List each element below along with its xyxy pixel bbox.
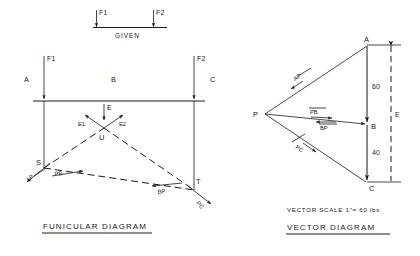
vector-ray-ap-label: AP	[292, 72, 302, 81]
given-force-left-label: F1	[99, 9, 108, 16]
funicular-ray-bp-label: BP	[157, 188, 166, 195]
vector-caption: VECTOR DIAGRAM	[287, 223, 375, 232]
funicular-resultant-label: E	[107, 104, 112, 111]
funicular-point-u-label: U	[99, 133, 104, 142]
funicular-ray-pc-label: PC	[195, 200, 205, 210]
given-diagram: F1 F2 GIVEN	[93, 9, 167, 39]
funicular-caption: FUNICULAR DIAGRAM	[43, 222, 147, 231]
vector-point-c-label: C	[369, 184, 375, 193]
given-force-right-label: F2	[156, 9, 165, 16]
funicular-string-ut	[104, 128, 194, 190]
funicular-component-e2-label: E2	[119, 121, 126, 127]
vector-scale-note: VECTOR SCALE 1"= 60 lbs	[287, 206, 380, 213]
vector-dimension-bc: 40	[372, 149, 380, 156]
funicular-diagram: F1 F2 A B C E E1 E2 U S AP PB BP	[24, 55, 216, 233]
vector-ray-pb	[265, 114, 365, 124]
funicular-region-b-label: B	[111, 75, 116, 84]
vector-ray-pb-label: PB	[310, 109, 318, 115]
engineering-figure: F1 F2 GIVEN F1 F2 A B C E E1 E2 U	[0, 0, 420, 256]
vector-ray-bp-label: BP	[320, 125, 328, 131]
funicular-point-s-label: S	[36, 158, 41, 167]
vector-point-p-label: P	[253, 110, 258, 119]
funicular-component-e1-label: E1	[78, 121, 85, 127]
funicular-region-c-label: C	[210, 75, 216, 84]
vector-ray-pc-label: PC	[294, 144, 304, 154]
vector-ray-pc-overbar	[292, 134, 305, 142]
vector-point-a-label: A	[364, 35, 369, 44]
given-caption: GIVEN	[115, 32, 140, 39]
vector-ray-pa	[265, 46, 367, 114]
vector-ray-ap-overbar	[298, 68, 311, 76]
vector-ray-ap-arrow	[291, 81, 303, 89]
vector-ray-pc	[265, 114, 366, 182]
funicular-component-e1-arrow	[85, 115, 104, 128]
vector-point-b-label: B	[371, 122, 376, 131]
funicular-force-right-label: F2	[197, 55, 206, 62]
funicular-ray-pb-label: PB	[54, 170, 63, 177]
vector-dimension-ab: 60	[372, 83, 380, 90]
funicular-ray-ap-overbar	[34, 169, 45, 176]
funicular-string-st	[44, 168, 194, 190]
funicular-force-left-label: F1	[47, 55, 56, 62]
vector-diagram: P A B C AP PB BP PC 60 40 E VECTOR SCALE…	[253, 35, 401, 234]
funicular-ray-ap-label: AP	[25, 173, 35, 183]
funicular-region-a-label: A	[24, 75, 29, 84]
vector-dimension-e-label: E	[395, 111, 400, 118]
funicular-string-su	[44, 128, 104, 168]
funicular-point-t-label: T	[196, 177, 201, 186]
vector-ray-pb-arrow	[311, 117, 332, 118]
